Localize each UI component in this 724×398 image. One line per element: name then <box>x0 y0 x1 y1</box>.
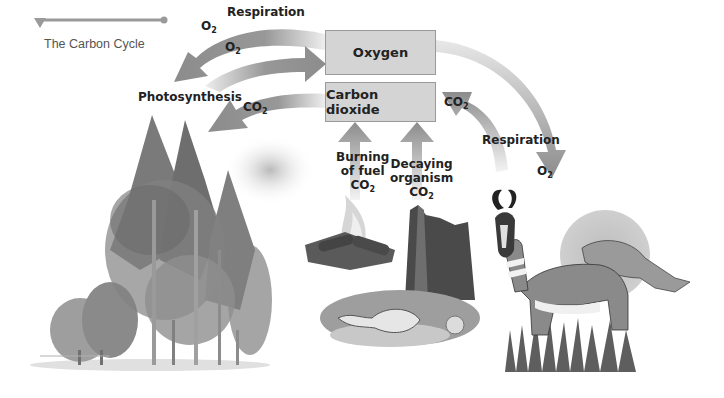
pronghorn-illustration <box>492 190 690 372</box>
burning-of-fuel-label: Burning of fuel CO2 <box>336 150 389 197</box>
photosynthesis-label: Photosynthesis <box>138 90 242 104</box>
trees-illustration <box>30 115 315 371</box>
o2-middle-label: O2 <box>225 40 241 56</box>
co2-right-label: CO2 <box>444 95 469 111</box>
o2-top-label: O2 <box>201 19 217 35</box>
co2-left-label: CO2 <box>243 100 268 116</box>
o2-right-label: O2 <box>537 164 553 180</box>
carbon-dioxide-box: Carbon dioxide <box>325 82 436 122</box>
diagram-title: The Carbon Cycle <box>44 37 145 51</box>
header-rule <box>34 17 168 29</box>
oxygen-box-label: Oxygen <box>353 45 408 60</box>
decaying-organism-label: Decaying organism CO2 <box>390 157 453 204</box>
respiration-top-label: Respiration <box>227 5 305 19</box>
respiration-right-label: Respiration <box>482 133 560 147</box>
carbon-dioxide-box-label: Carbon dioxide <box>326 87 435 117</box>
campfire-illustration <box>305 195 395 270</box>
oxygen-box: Oxygen <box>325 30 436 75</box>
